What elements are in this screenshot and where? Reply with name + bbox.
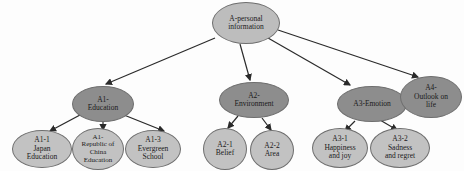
node-a4-outlook-on-life: A4- Outlook on life: [400, 76, 462, 118]
node-root-personal-information: A-personal information: [212, 2, 280, 44]
node-a1-education: A1- Education: [72, 86, 134, 122]
node-a1-3-evergreen-school: A1-3 Evergreen School: [125, 130, 181, 168]
edge-A-A2: [240, 44, 250, 80]
diagram-canvas: A-personal information A1- Education A2-…: [0, 0, 464, 171]
node-a1-2-roc-education: A1- Republic of China Education: [72, 128, 124, 170]
node-a3-1-happiness-and-joy: A3-1 Happiness and joy: [312, 128, 368, 168]
node-a1-1-japan-education: A1-1 Japan Education: [12, 130, 72, 168]
edge-A2-A2-1: [228, 116, 238, 128]
node-a2-environment: A2- Environment: [219, 82, 289, 118]
edge-A1-A1-1: [50, 115, 80, 131]
node-a2-1-belief: A2-1 Belief: [203, 128, 247, 170]
edge-A-A3: [268, 38, 350, 85]
edge-A-A4: [278, 30, 418, 77]
edge-A-A1: [106, 38, 215, 84]
edge-A2-A2-2: [262, 118, 271, 130]
node-a2-2-area: A2-2 Area: [250, 130, 294, 170]
node-a3-emotion: A3-Emotion: [337, 86, 407, 122]
node-a3-2-sadness-and-regret: A3-2 Sadness and regret: [370, 128, 430, 168]
edge-A1-A1-3: [124, 115, 164, 131]
